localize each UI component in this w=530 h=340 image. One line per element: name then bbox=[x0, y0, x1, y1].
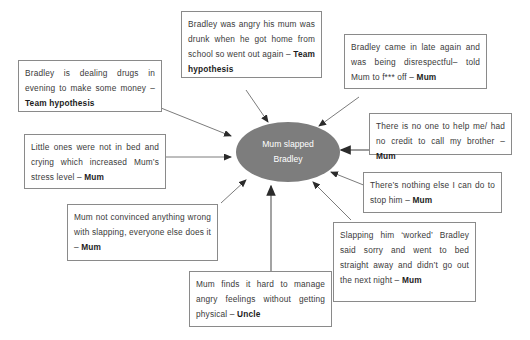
note-manage-anger-source: Uncle bbox=[237, 309, 260, 319]
note-no-one-to-help-source: Mum bbox=[376, 151, 396, 161]
note-little-ones[interactable]: Little ones were not in bed and crying w… bbox=[24, 134, 166, 189]
note-no-one-to-help-text: There is no one to help me/ had no credi… bbox=[376, 121, 505, 146]
central-node: Mum slapped Bradley bbox=[236, 122, 340, 182]
note-late-disrespectful-text: Bradley came in late again and was being… bbox=[351, 42, 480, 82]
note-drugs[interactable]: Bradley is dealing drugs in evening to m… bbox=[18, 60, 162, 112]
note-manage-anger-text: Mum finds it hard to manage angry feelin… bbox=[196, 279, 325, 319]
note-not-convinced[interactable]: Mum not convinced anything wrong with sl… bbox=[67, 204, 218, 261]
note-nothing-else[interactable]: There’s nothing else I can do to stop hi… bbox=[363, 172, 502, 213]
central-node-line1: Mum slapped bbox=[262, 137, 314, 152]
note-nothing-else-text: There’s nothing else I can do to stop hi… bbox=[370, 180, 495, 205]
note-no-one-to-help[interactable]: There is no one to help me/ had no credi… bbox=[369, 113, 512, 155]
note-slapping-worked[interactable]: Slapping him ‘worked’ Bradley said sorry… bbox=[333, 222, 476, 302]
note-little-ones-source: Mum bbox=[84, 172, 104, 182]
note-manage-anger[interactable]: Mum finds it hard to manage angry feelin… bbox=[189, 271, 332, 327]
note-drugs-text: Bradley is dealing drugs in evening to m… bbox=[25, 68, 155, 93]
note-slapping-worked-source: Mum bbox=[402, 275, 422, 285]
note-late-disrespectful[interactable]: Bradley came in late again and was being… bbox=[344, 34, 487, 89]
note-nothing-else-source: Mum bbox=[412, 195, 432, 205]
note-late-disrespectful-source: Mum bbox=[417, 72, 437, 82]
central-node-line2: Bradley bbox=[273, 152, 302, 167]
note-angry-drunk[interactable]: Bradley was angry his mum was drunk when… bbox=[181, 11, 322, 78]
note-drugs-source: Team hypothesis bbox=[25, 98, 95, 108]
note-not-convinced-source: Mum bbox=[81, 242, 101, 252]
diagram-canvas: Mum slapped Bradley Bradley is dealing d… bbox=[0, 0, 530, 340]
